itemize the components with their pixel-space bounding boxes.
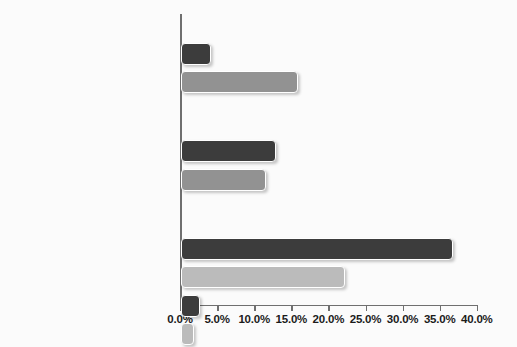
bar [181, 71, 298, 93]
bar [181, 266, 345, 288]
x-axis-tick [254, 305, 256, 311]
x-axis-tick-label: 30.0% [387, 313, 419, 325]
x-axis-tick-label: 10.0% [238, 313, 270, 325]
x-axis-tick-label: 35.0% [424, 313, 456, 325]
bar [181, 295, 200, 317]
bar [181, 238, 453, 260]
bar [181, 323, 194, 345]
x-axis-tick [291, 305, 293, 311]
bar-chart: 0.0%5.0%10.0%15.0%20.0%25.0%30.0%35.0%40… [0, 0, 517, 347]
plot-area: 0.0%5.0%10.0%15.0%20.0%25.0%30.0%35.0%40… [0, 0, 517, 347]
x-axis-tick-label: 15.0% [275, 313, 307, 325]
x-axis-tick [217, 305, 219, 311]
x-axis-tick [366, 305, 368, 311]
x-axis-tick-label: 25.0% [350, 313, 382, 325]
x-axis-tick [328, 305, 330, 311]
x-axis-tick-label: 5.0% [204, 313, 229, 325]
x-axis-tick [440, 305, 442, 311]
bar [181, 140, 276, 162]
x-axis-tick [477, 305, 479, 311]
x-axis-tick-label: 40.0% [461, 313, 493, 325]
x-axis-tick [403, 305, 405, 311]
bar [181, 43, 211, 65]
x-axis-tick-label: 20.0% [313, 313, 345, 325]
bar [181, 169, 266, 191]
